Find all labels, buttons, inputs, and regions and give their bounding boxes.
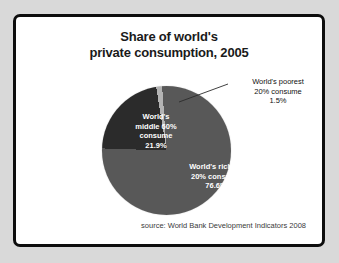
pie-label-richest: World's richest 20% consume 76.6% <box>176 162 256 191</box>
pie-label-middle: World's middle 60% consume 21.9% <box>124 112 188 150</box>
pie-label-middle-line-1: World's <box>124 112 188 122</box>
pie-label-poorest: World's poorest 20% consume 1.5% <box>228 77 328 106</box>
page-title: Share of world's private consumption, 20… <box>16 29 322 61</box>
pie-label-richest-line-1: World's richest <box>176 162 256 172</box>
slide-frame: Share of world's private consumption, 20… <box>13 14 325 247</box>
pie-label-middle-line-3: consume <box>124 131 188 141</box>
pie-label-poorest-value: 1.5% <box>228 96 328 106</box>
pie-label-poorest-line-2: 20% consume <box>228 87 328 97</box>
pie-slices <box>102 86 231 215</box>
title-line-1: Share of world's <box>120 29 217 44</box>
pie-label-richest-line-2: 20% consume <box>176 172 256 182</box>
pie-label-poorest-line-1: World's poorest <box>228 77 328 87</box>
pie-label-richest-value: 76.6% <box>176 181 256 191</box>
source-note: source: World Bank Development Indicator… <box>16 221 306 230</box>
pie-label-middle-value: 21.9% <box>124 141 188 151</box>
title-line-2: private consumption, 2005 <box>16 45 322 61</box>
pie-chart: World's middle 60% consume 21.9% World's… <box>102 86 232 216</box>
pie-label-middle-line-2: middle 60% <box>124 122 188 132</box>
